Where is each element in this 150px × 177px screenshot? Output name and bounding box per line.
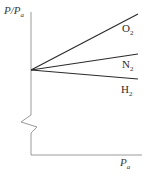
curve-label-h2-subscript: 2 <box>129 90 133 98</box>
gas-deviation-plot: P/Pa Pa O2 N2 H2 <box>0 0 150 177</box>
y-axis-label-text: P/P <box>4 4 21 16</box>
curve-label-n2: N2 <box>122 59 133 73</box>
y-axis-break-zigzag-icon <box>21 115 37 133</box>
curve-label-n2-text: N <box>122 58 130 70</box>
curve-label-h2: H2 <box>121 84 132 98</box>
curve-label-n2-subscript: 2 <box>130 65 134 73</box>
x-axis-label: Pa <box>120 157 130 171</box>
y-axis-label: P/Pa <box>4 5 24 19</box>
curve-label-o2-text: O <box>122 22 130 34</box>
curve-label-o2-subscript: 2 <box>130 29 134 37</box>
x-axis-label-text: P <box>120 156 127 168</box>
x-axis-label-subscript: a <box>127 163 131 171</box>
y-axis-label-subscript: a <box>21 11 25 19</box>
curve-label-h2-text: H <box>121 83 129 95</box>
curve-label-o2: O2 <box>122 23 133 37</box>
